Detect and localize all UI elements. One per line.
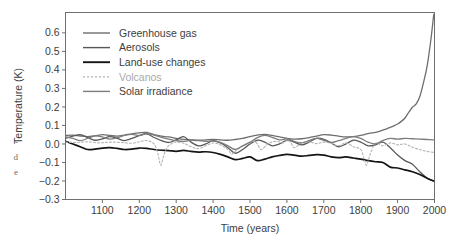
legend-label-aerosols: Aerosols — [119, 41, 160, 53]
legend-label-greenhouse-gas: Greenhouse gas — [119, 27, 197, 39]
x-tick-label: 1600 — [275, 204, 299, 216]
y-tick-label: 0.5 — [45, 45, 60, 57]
x-tick-label: 2000 — [423, 204, 447, 216]
x-tick-label: 1400 — [201, 204, 225, 216]
x-tick-label: 1800 — [349, 204, 373, 216]
figure-container: , - d e −0.3−0.2−0.10.00.10.20.30.40.50.… — [0, 0, 463, 250]
y-tick-label: 0.2 — [45, 101, 60, 113]
x-tick-label: 1700 — [312, 204, 336, 216]
y-tick-label: 0.1 — [45, 119, 60, 131]
y-tick-label: −0.3 — [39, 193, 60, 205]
x-tick-label: 1500 — [238, 204, 262, 216]
y-tick-label: 0.4 — [45, 63, 60, 75]
y-tick-label: 0.6 — [45, 26, 60, 38]
legend-label-solar-irradiance: Solar irradiance — [119, 85, 193, 97]
legend-label-volcanos: Volcanos — [119, 71, 162, 83]
y-axis-ticks: −0.3−0.2−0.10.00.10.20.30.40.50.6 — [39, 26, 66, 205]
y-tick-label: 0.3 — [45, 82, 60, 94]
x-tick-label: 1200 — [128, 204, 152, 216]
x-tick-label: 1900 — [386, 204, 410, 216]
y-tick-label: 0.0 — [45, 138, 60, 150]
temperature-forcings-line-chart: −0.3−0.2−0.10.00.10.20.30.40.50.6 110012… — [0, 0, 463, 250]
x-tick-label: 1300 — [165, 204, 189, 216]
x-axis-ticks: 1100120013001400150016001700180019002000 — [91, 200, 446, 217]
y-axis-title: Temperature (K) — [12, 68, 24, 144]
legend-label-land-use-changes: Land-use changes — [119, 56, 205, 68]
y-tick-label: −0.1 — [39, 156, 60, 168]
x-tick-label: 1100 — [91, 204, 114, 216]
x-axis-title: Time (years) — [221, 222, 280, 234]
y-tick-label: −0.2 — [39, 175, 60, 187]
